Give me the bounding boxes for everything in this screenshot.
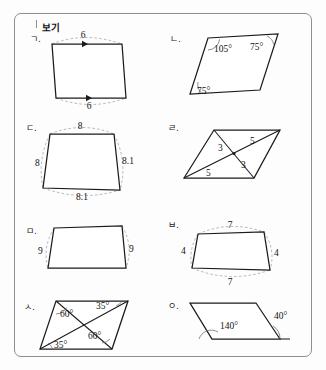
figure-a-top-arc xyxy=(52,38,122,45)
figure-c-label-bottom: 8.1 xyxy=(76,192,88,202)
figure-h-marker: ㅇ. xyxy=(168,299,179,312)
figure-e-drawing: 9 9 xyxy=(26,212,156,288)
figure-h-label-interior: 140° xyxy=(220,321,238,331)
figure-a-drawing: 6 6 xyxy=(30,28,150,110)
figure-d-center-point xyxy=(233,152,236,155)
figure-d-label-upper-right: 5 xyxy=(250,136,255,146)
figure-c-drawing: 8 8 8.1 8.1 xyxy=(26,118,151,200)
figure-b-outline xyxy=(190,34,278,94)
figure-f-label-bottom: 7 xyxy=(228,277,233,287)
figure-e: ㅁ. 9 9 xyxy=(26,212,156,288)
figure-f-label-right: 4 xyxy=(274,248,279,258)
figure-e-label-left: 9 xyxy=(38,246,43,256)
figure-b-label-top-right: 75° xyxy=(250,42,264,52)
worksheet-page: 보기 ㄱ. 6 6 ㄴ. 105° 75° 75° xyxy=(0,0,326,370)
figure-h-drawing: 140° 40° xyxy=(168,295,308,355)
figure-d-label-lower-left: 5 xyxy=(206,168,211,178)
figure-f-label-top: 7 xyxy=(228,220,233,230)
figure-g-label-top-left: 60° xyxy=(60,309,74,319)
figure-g-drawing: 60° 35° 60° 35° xyxy=(24,295,154,357)
figure-g: ㅅ. 60° 35° 60° 35° xyxy=(24,295,154,357)
figure-f-label-left: 4 xyxy=(181,246,186,256)
figure-f-marker: ㅂ. xyxy=(168,218,179,231)
figure-f: ㅂ. 7 4 4 7 xyxy=(168,212,303,292)
figure-d: ㄹ. 3 5 3 5 xyxy=(168,118,303,198)
figure-c-label-left: 8 xyxy=(35,158,40,168)
figure-g-label-bottom-left: 35° xyxy=(54,340,68,350)
figure-h-label-exterior: 40° xyxy=(274,311,288,321)
figure-a-label-bottom: 6 xyxy=(87,101,92,111)
figure-e-outline xyxy=(48,226,126,268)
figure-g-label-bottom-right: 60° xyxy=(88,331,102,341)
figure-d-label-lower-right: 3 xyxy=(241,160,246,170)
figure-b-label-top-left: 105° xyxy=(214,44,232,54)
figure-f-outline xyxy=(192,232,270,270)
examples-box-label: 보기 xyxy=(36,20,66,35)
figure-e-label-right: 9 xyxy=(129,244,134,254)
figure-b-label-bottom-left: 75° xyxy=(197,86,211,96)
figure-c-label-right: 8.1 xyxy=(122,156,134,166)
figure-e-marker: ㅁ. xyxy=(26,224,37,237)
figure-d-drawing: 3 5 3 5 xyxy=(168,118,303,198)
figure-d-label-upper-left: 3 xyxy=(218,143,223,153)
figure-g-label-top-right: 35° xyxy=(96,301,110,311)
figure-f-drawing: 7 4 4 7 xyxy=(168,212,303,292)
figure-g-marker: ㅅ. xyxy=(24,300,35,313)
figure-c-label-top: 8 xyxy=(78,121,83,131)
figure-b-marker: ㄴ. xyxy=(170,32,181,45)
figure-a-label-top: 6 xyxy=(81,30,86,40)
figure-b: ㄴ. 105° 75° 75° xyxy=(170,28,295,108)
figure-c-marker: ㄷ. xyxy=(26,121,37,134)
figure-h: ㅇ. 140° 40° xyxy=(168,295,308,355)
figure-a-outline xyxy=(52,44,126,98)
figure-d-marker: ㄹ. xyxy=(168,121,179,134)
figure-a: ㄱ. 6 6 xyxy=(30,28,150,110)
figure-b-drawing: 105° 75° 75° xyxy=(170,28,295,108)
figure-c-outline xyxy=(43,134,120,190)
figure-c: ㄷ. 8 8 8.1 8.1 xyxy=(26,118,151,200)
